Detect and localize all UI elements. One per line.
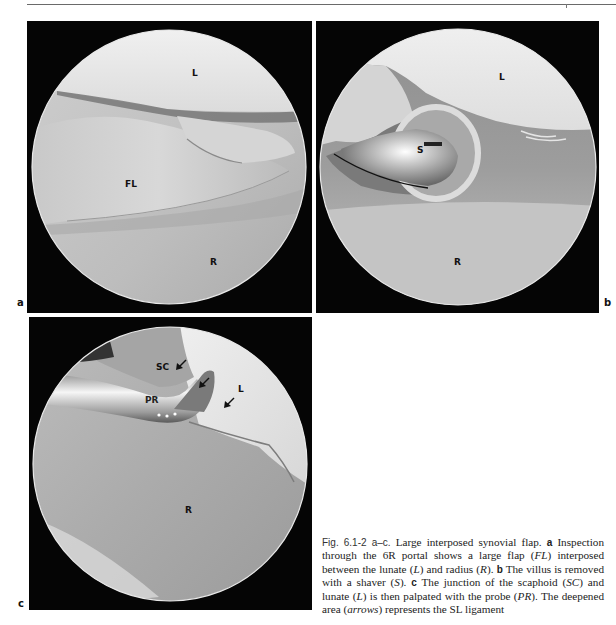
caption-text: ) represents the SL ligament <box>378 603 504 615</box>
label-lunate: L <box>192 68 198 78</box>
caption-abbr: PR <box>518 590 532 602</box>
caption-abbr: R <box>480 563 487 575</box>
figure-panel-c: SC PR L R <box>29 317 312 610</box>
figure-reference: Fig. 6.1-2 a–c. <box>322 537 391 548</box>
arthroscopic-image-c: SC PR L R <box>29 317 312 610</box>
caption-abbr: FL <box>535 549 548 561</box>
figure-panel-b: L S R <box>316 21 599 313</box>
panel-letter-a: a <box>17 297 24 308</box>
arthroscopic-image-a: L FL R <box>27 21 312 313</box>
header-rule <box>27 4 616 5</box>
label-flap: FL <box>125 179 137 189</box>
caption-abbr: SC <box>566 576 579 588</box>
label-radius: R <box>454 257 461 267</box>
panel-letter-b: b <box>604 297 611 308</box>
label-radius: R <box>210 257 217 267</box>
label-lunate: L <box>238 384 244 394</box>
caption-abbr: arrows <box>347 603 378 615</box>
caption-text: ) and radius ( <box>420 563 480 575</box>
caption-title: Large interposed synovial flap. <box>391 536 547 548</box>
label-lunate: L <box>499 72 505 82</box>
caption-text: ). <box>487 563 497 575</box>
label-scaphoid: SC <box>156 362 169 372</box>
caption-text: ). <box>400 576 411 588</box>
arthroscopic-image-b: L S R <box>316 21 599 313</box>
figure-panel-a: L FL R <box>27 21 312 313</box>
label-radius: R <box>185 505 192 515</box>
caption-text: The junction of the scaphoid ( <box>417 576 566 588</box>
header-rule-tick <box>566 4 567 8</box>
caption-text: ) is then palpated with the probe ( <box>363 590 518 602</box>
label-shaver: S <box>417 145 423 155</box>
panel-letter-c: c <box>18 598 24 609</box>
label-probe: PR <box>145 395 159 405</box>
figure-caption: Fig. 6.1-2 a–c. Large interposed synovia… <box>322 536 604 616</box>
